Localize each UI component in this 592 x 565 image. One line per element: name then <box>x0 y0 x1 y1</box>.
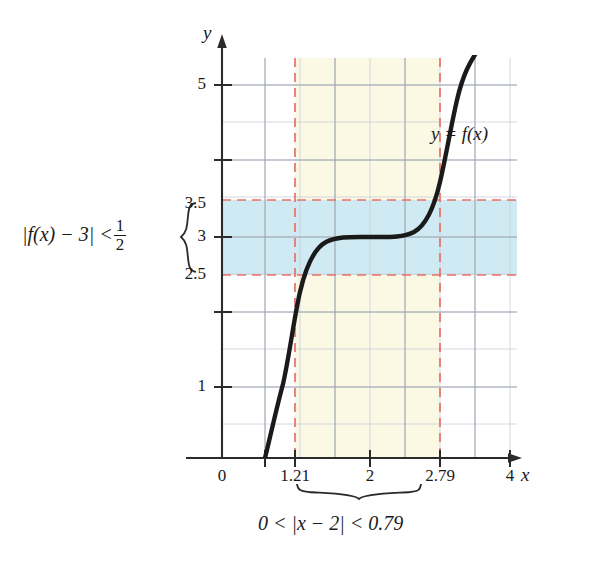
x-tick-label-1p21: 1.21 <box>271 466 319 486</box>
y-tick-label-3: 3 <box>178 226 206 246</box>
y-tick-label-3p5: 3.5 <box>166 193 206 213</box>
one-half-fraction: 12 <box>114 217 127 255</box>
epsilon-inequality-label: |f(x) − 3| <12 <box>22 218 127 256</box>
delta-brace <box>297 484 421 499</box>
delta-inequality-label: 0 < |x − 2| < 0.79 <box>258 512 403 535</box>
x-tick-label-4: 4 <box>500 466 520 486</box>
y-axis-label: y <box>203 22 211 44</box>
y-tick-label-5: 5 <box>178 74 206 94</box>
curve-label: y = f(x) <box>431 123 488 145</box>
y-axis-arrow <box>217 34 227 48</box>
x-tick-label-2: 2 <box>360 466 380 486</box>
y-tick-label-1: 1 <box>178 376 206 396</box>
y-tick-label-2p5: 2.5 <box>166 264 206 284</box>
fraction-numerator: 1 <box>114 217 127 236</box>
x-tick-label-0: 0 <box>212 466 232 486</box>
limit-epsilon-delta-figure: 5 3.5 3 2.5 1 0 1.21 2 2.79 4 y x y = f(… <box>0 0 592 565</box>
x-axis-label: x <box>521 464 529 486</box>
fraction-denominator: 2 <box>114 236 127 255</box>
epsilon-inequality-text: |f(x) − 3| < <box>22 223 113 245</box>
x-tick-label-2p79: 2.79 <box>416 466 464 486</box>
